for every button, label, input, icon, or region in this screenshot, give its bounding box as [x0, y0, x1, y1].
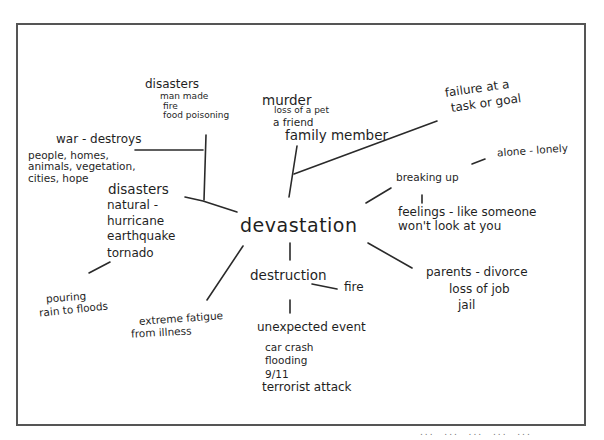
node-parents-line: loss of job: [449, 283, 510, 296]
node-parents-line: parents - divorce: [426, 266, 528, 279]
node-unexpected-title: unexpected event: [257, 321, 366, 334]
node-murder-line: loss of a pet: [274, 106, 329, 115]
footer-partial-text: ... ... ... ... ...: [420, 427, 532, 437]
node-murder-line: family member: [285, 128, 388, 142]
node-disasters-man-made-line: food poisoning: [163, 111, 229, 120]
node-unexpected-line: 9/11: [265, 369, 289, 380]
node-unexpected-line: car crash: [265, 342, 314, 353]
center-node-devastation: devastation: [240, 216, 358, 236]
node-feelings-line: feelings - like someone: [398, 206, 536, 219]
node-parents-line: jail: [458, 299, 475, 312]
node-disasters-man-made-title: disasters: [145, 78, 199, 91]
node-disasters-natural-line: hurricane: [107, 215, 164, 228]
node-disasters-natural-line: earthquake: [107, 230, 175, 243]
node-disasters-natural-title: disasters: [108, 182, 169, 196]
node-war-line: cities, hope: [28, 173, 89, 184]
node-unexpected-line: flooding: [265, 355, 307, 366]
node-destruction-title: destruction: [250, 268, 327, 282]
node-destruction-fire: fire: [344, 281, 364, 294]
node-disasters-natural-line: tornado: [107, 247, 154, 260]
node-war-line: animals, vegetation,: [28, 161, 136, 172]
node-feelings-line: won't look at you: [398, 220, 501, 233]
node-breaking-up-title: breaking up: [396, 172, 459, 183]
node-disasters-natural-line: natural -: [107, 199, 158, 212]
node-war-title: war - destroys: [56, 133, 141, 146]
node-unexpected-line: terrorist attack: [262, 381, 352, 394]
